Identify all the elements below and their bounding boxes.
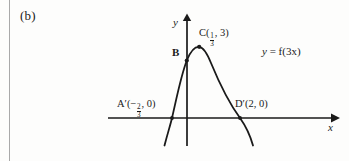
point-label-c-denominator: 3 <box>210 41 215 48</box>
point-label-a-prime-fraction: 23 <box>137 104 142 119</box>
equation-relation: = <box>270 45 276 57</box>
equation-rhs: f(3x) <box>279 45 301 57</box>
curve-f3x <box>165 47 254 146</box>
x-axis-label: x <box>328 121 333 133</box>
equation-lhs: y <box>262 45 267 57</box>
point-label-c-prefix: C( <box>199 27 210 38</box>
point-label-d-prime: D′(2, 0) <box>235 98 268 109</box>
y-axis <box>183 14 191 147</box>
y-axis-label: y <box>173 16 178 28</box>
point-label-a-prime-denominator: 3 <box>137 112 142 119</box>
point-label-a-prime-prefix: A′(− <box>117 98 136 109</box>
point-label-a-prime: A′(−23, 0) <box>117 98 156 119</box>
point-label-c: C(13, 3) <box>199 27 229 48</box>
point-label-b: B <box>172 46 179 58</box>
point-marker-b <box>185 58 189 62</box>
point-label-c-suffix: , 3) <box>215 27 229 38</box>
point-label-c-fraction: 13 <box>210 33 215 48</box>
point-label-a-prime-suffix: , 0) <box>142 98 156 109</box>
point-marker-d-prime <box>238 116 242 120</box>
figure-panel: (b) y x B C(13, <box>0 0 349 161</box>
point-marker-a-prime <box>170 116 174 120</box>
equation-label: y = f(3x) <box>262 45 301 57</box>
